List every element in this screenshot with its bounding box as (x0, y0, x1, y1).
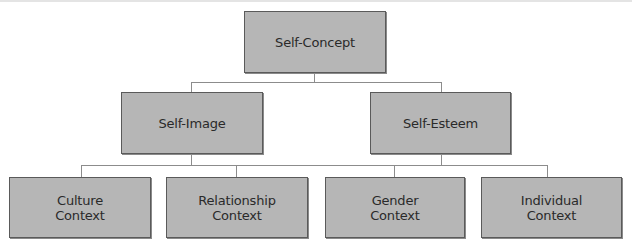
connector-to-self-esteem (441, 82, 442, 92)
connector-to-self-image (191, 82, 192, 92)
connector-level2-bar (191, 82, 442, 83)
connector-level3-bar (81, 165, 548, 166)
connector-self-esteem-down (441, 154, 442, 165)
node-gender-context: Gender Context (325, 177, 465, 238)
node-culture-context: Culture Context (9, 177, 151, 238)
connector-to-culture (81, 165, 82, 177)
node-self-image: Self-Image (121, 92, 263, 154)
top-rule (0, 0, 632, 2)
connector-self-image-down (191, 154, 192, 165)
node-label-line1: Culture (57, 193, 103, 208)
node-label-line2: Context (370, 208, 420, 223)
node-self-esteem: Self-Esteem (370, 92, 511, 154)
node-label-line2: Context (212, 208, 262, 223)
connector-to-individual (547, 165, 548, 177)
node-label: Self-Esteem (403, 116, 478, 131)
node-label-line1: Relationship (198, 193, 275, 208)
connector-to-gender (394, 165, 395, 177)
node-label-line1: Individual (521, 193, 582, 208)
node-label-line2: Context (55, 208, 105, 223)
connector-to-relationship (236, 165, 237, 177)
node-individual-context: Individual Context (481, 177, 622, 238)
node-label-line1: Gender (372, 193, 419, 208)
node-label: Self-Concept (275, 35, 355, 50)
connector-root-down (314, 73, 315, 82)
node-relationship-context: Relationship Context (166, 177, 308, 238)
node-label: Self-Image (158, 116, 225, 131)
node-label-line2: Context (527, 208, 577, 223)
node-self-concept: Self-Concept (244, 11, 386, 73)
